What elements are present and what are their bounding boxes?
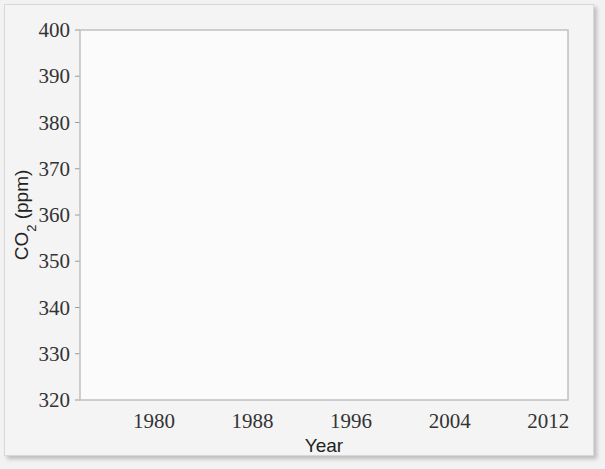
y-tick-label: 380	[39, 111, 71, 135]
y-tick-label: 370	[39, 157, 71, 181]
y-axis-tick-labels: 320330340350360370380390400	[39, 18, 81, 412]
x-tick-label: 1980	[133, 409, 175, 433]
y-tick-label: 360	[39, 203, 71, 227]
x-tick-label: 1996	[330, 409, 372, 433]
figure-container: 320330340350360370380390400 198019881996…	[0, 0, 605, 469]
x-axis-tick-labels: 19801988199620042012	[133, 409, 569, 433]
x-tick-label: 2004	[429, 409, 472, 433]
y-axis-title: CO2 (ppm)	[11, 170, 39, 261]
x-tick-label: 2012	[527, 409, 569, 433]
co2-line-chart: 320330340350360370380390400 198019881996…	[0, 0, 605, 469]
x-tick-label: 1988	[232, 409, 274, 433]
y-tick-label: 400	[39, 18, 71, 42]
y-tick-label: 390	[39, 64, 71, 88]
plot-frame	[80, 30, 568, 400]
x-axis-title: Year	[305, 435, 344, 456]
y-tick-label: 340	[39, 296, 71, 320]
y-tick-label: 320	[39, 388, 71, 412]
y-tick-label: 330	[39, 342, 71, 366]
chart-area: 320330340350360370380390400 198019881996…	[0, 0, 605, 469]
y-tick-label: 350	[39, 249, 71, 273]
